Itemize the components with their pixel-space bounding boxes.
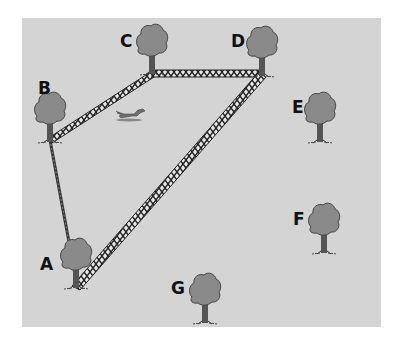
tree-label-g: G [171,280,185,297]
diagram-scene [0,0,403,351]
tree-label-a: A [40,256,53,273]
tree-f-icon [309,203,340,254]
connection-c-d [152,70,262,77]
tree-label-d: D [231,33,245,50]
tree-c-icon [137,24,168,75]
tree-d-icon [247,26,278,77]
tree-label-c: C [120,33,132,50]
tree-label-e: E [292,99,304,116]
tree-g-icon [190,273,221,324]
tree-label-b: B [38,80,51,97]
running-dog-icon [116,109,145,122]
tree-e-icon [305,92,336,143]
tree-label-f: F [293,211,305,228]
